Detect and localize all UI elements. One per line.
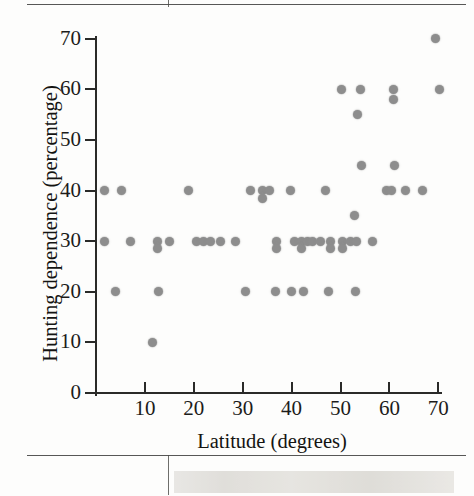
data-point bbox=[100, 186, 109, 195]
data-point bbox=[389, 85, 398, 94]
data-point bbox=[117, 186, 126, 195]
data-point bbox=[246, 186, 255, 195]
x-tick-label-60: 60 bbox=[369, 398, 409, 419]
data-point bbox=[258, 194, 267, 203]
x-tick-label-10: 10 bbox=[125, 398, 165, 419]
data-point bbox=[299, 287, 308, 296]
x-tick-10 bbox=[144, 382, 146, 393]
data-point bbox=[324, 287, 333, 296]
x-tick-20 bbox=[193, 382, 195, 393]
data-point bbox=[184, 186, 193, 195]
data-point bbox=[338, 244, 347, 253]
data-point bbox=[321, 186, 330, 195]
data-point bbox=[316, 237, 325, 246]
data-point bbox=[401, 186, 410, 195]
data-point bbox=[153, 244, 162, 253]
x-tick-label-20: 20 bbox=[174, 398, 214, 419]
x-tick-30 bbox=[242, 382, 244, 393]
data-point bbox=[265, 186, 274, 195]
data-point bbox=[350, 211, 359, 220]
data-point bbox=[241, 287, 250, 296]
data-point bbox=[351, 287, 360, 296]
x-tick-label-40: 40 bbox=[272, 398, 312, 419]
x-tick-label-30: 30 bbox=[223, 398, 263, 419]
data-point bbox=[111, 287, 120, 296]
x-tick-label-50: 50 bbox=[321, 398, 361, 419]
data-point bbox=[337, 85, 346, 94]
data-point bbox=[231, 237, 240, 246]
data-point bbox=[418, 186, 427, 195]
y-tick-30 bbox=[85, 240, 96, 242]
data-point bbox=[387, 186, 396, 195]
data-point bbox=[352, 237, 361, 246]
data-point bbox=[126, 237, 135, 246]
data-point bbox=[272, 244, 281, 253]
x-tick-60 bbox=[388, 382, 390, 393]
data-point bbox=[286, 186, 295, 195]
data-point bbox=[148, 338, 157, 347]
data-point bbox=[271, 287, 280, 296]
y-tick-0 bbox=[85, 392, 96, 394]
y-tick-50 bbox=[85, 139, 96, 141]
data-point bbox=[165, 237, 174, 246]
data-point bbox=[308, 237, 317, 246]
x-tick-label-70: 70 bbox=[418, 398, 458, 419]
x-tick-50 bbox=[340, 382, 342, 393]
y-tick-20 bbox=[85, 291, 96, 293]
data-point bbox=[357, 161, 366, 170]
y-tick-60 bbox=[85, 88, 96, 90]
data-point bbox=[390, 161, 399, 170]
x-tick-40 bbox=[291, 382, 293, 393]
data-point bbox=[154, 287, 163, 296]
data-point bbox=[435, 85, 444, 94]
data-point bbox=[297, 244, 306, 253]
y-tick-70 bbox=[85, 38, 96, 40]
data-point bbox=[216, 237, 225, 246]
data-point bbox=[287, 287, 296, 296]
data-point bbox=[368, 237, 377, 246]
x-tick-70 bbox=[437, 382, 439, 393]
data-point bbox=[353, 110, 362, 119]
data-point bbox=[326, 244, 335, 253]
data-point bbox=[206, 237, 215, 246]
data-point bbox=[356, 85, 365, 94]
scatter-chart: 010203040506070 10203040506070 Latitude … bbox=[0, 0, 474, 496]
x-axis-title: Latitude (degrees) bbox=[0, 430, 474, 453]
data-point bbox=[431, 34, 440, 43]
y-axis-title: Hunting dependence (percentage) bbox=[39, 24, 62, 424]
y-tick-40 bbox=[85, 190, 96, 192]
data-point bbox=[100, 237, 109, 246]
y-tick-10 bbox=[85, 341, 96, 343]
data-point bbox=[389, 95, 398, 104]
